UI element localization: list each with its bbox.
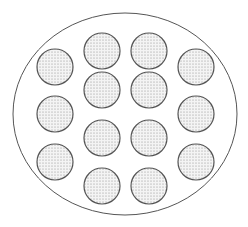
stippled-circle-bottom-right-inner (131, 168, 167, 204)
stippled-circle-left-middle (37, 96, 73, 132)
stippled-circle-right-middle (178, 96, 214, 132)
stippled-circle-left-lower (37, 144, 73, 180)
stippled-circle-inner-lower-right (131, 120, 167, 156)
stippled-circle-right-lower (178, 144, 214, 180)
cross-section-diagram (0, 0, 248, 227)
stippled-circle-bottom-left-inner (84, 168, 120, 204)
stippled-circles-group (37, 33, 214, 204)
stippled-circle-inner-upper-right (131, 72, 167, 108)
diagram-canvas (0, 0, 248, 227)
stippled-circle-right-upper (178, 49, 214, 85)
stippled-circle-inner-upper-left (84, 72, 120, 108)
stippled-circle-top-left-inner (84, 33, 120, 69)
stippled-circle-left-upper (37, 49, 73, 85)
stippled-circle-top-right-inner (131, 33, 167, 69)
stippled-circle-inner-lower-left (84, 120, 120, 156)
